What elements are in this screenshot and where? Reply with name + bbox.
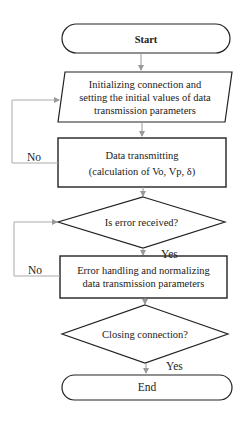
edge-label-no-2: No — [28, 264, 42, 276]
error-handling-line-1: Error handling and normalizing — [60, 264, 227, 277]
init-label: Initializing connection and setting the … — [62, 78, 228, 117]
transmit-label-line-1: Data transmitting — [58, 149, 226, 162]
closing-label: Closing connection? — [62, 328, 228, 341]
transmit-label: Data transmitting (calculation of Vo, Vp… — [58, 149, 226, 178]
error-handling-line-2: data transmission parameters — [60, 277, 227, 290]
end-label: End — [62, 381, 232, 394]
edge-label-yes-1: Yes — [161, 248, 178, 260]
init-label-line-2: setting the initial values of data — [62, 91, 228, 104]
edge-label-yes-2: Yes — [166, 360, 183, 372]
start-label: Start — [62, 33, 230, 46]
init-label-line-1: Initializing connection and — [62, 78, 228, 91]
error-check-label: Is error received? — [58, 216, 225, 229]
init-label-line-3: transmission parameters — [62, 104, 228, 117]
error-handling-label: Error handling and normalizing data tran… — [60, 264, 227, 290]
edge-label-no-1: No — [27, 151, 41, 163]
transmit-label-line-2: (calculation of Vo, Vp, δ) — [58, 165, 226, 178]
flowchart-canvas — [0, 0, 245, 422]
